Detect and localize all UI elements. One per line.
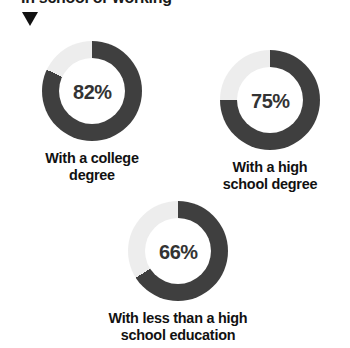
donut-hole-college: 82% [59, 58, 125, 124]
donut-caption-lessthan-line2: school education [92, 327, 265, 344]
page-title: In school or working [21, 0, 172, 8]
headline-clipped-region: In school or working [0, 0, 350, 9]
donut-caption-college: With a college degree [15, 150, 169, 184]
triangle-down-icon [22, 12, 38, 26]
donut-chart-highschool: 75% With a high school degree [190, 50, 350, 193]
infographic-canvas: In school or working 82% With a college … [0, 0, 350, 348]
donut-caption-highschool: With a high school degree [193, 159, 347, 193]
donut-ring-lessthan: 66% [128, 201, 228, 301]
donut-ring-highschool: 75% [220, 50, 320, 150]
donut-hole-highschool: 75% [237, 67, 303, 133]
donut-chart-college: 82% With a college degree [12, 41, 172, 184]
donut-caption-highschool-line1: With a high [193, 159, 347, 176]
donut-caption-college-line1: With a college [15, 150, 169, 167]
donut-value-highschool: 75% [251, 90, 290, 111]
donut-chart-lessthan: 66% With less than a high school educati… [88, 201, 268, 344]
donut-caption-college-line2: degree [15, 167, 169, 184]
donut-caption-lessthan: With less than a high school education [92, 310, 265, 344]
donut-value-lessthan: 66% [159, 241, 198, 262]
donut-hole-lessthan: 66% [145, 218, 211, 284]
donut-ring-college: 82% [42, 41, 142, 141]
donut-caption-highschool-line2: school degree [193, 176, 347, 193]
donut-value-college: 82% [73, 81, 112, 102]
donut-caption-lessthan-line1: With less than a high [92, 310, 265, 327]
